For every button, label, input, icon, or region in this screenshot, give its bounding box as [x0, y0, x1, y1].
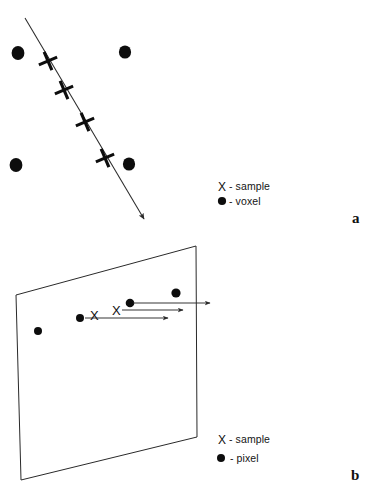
legend-pixel-label-b: - pixel — [230, 452, 259, 464]
image-plane-quad — [16, 246, 197, 480]
panel-letter-b: b — [351, 467, 359, 483]
legend-sample-symbol-b: X — [218, 433, 226, 447]
pixel-dot-upper-right — [171, 288, 180, 297]
legend-panel-a: X - sample - voxel — [218, 180, 270, 207]
pixel-dot-far-left — [34, 327, 42, 335]
figure-root: X - sample - voxel a — [0, 0, 371, 496]
panel-a: X - sample - voxel a — [10, 18, 360, 226]
sample-marks-group — [39, 52, 114, 167]
plane-sample-mark-2: X — [112, 303, 121, 318]
panel-b: X X X - sample - pixel b — [16, 246, 359, 483]
legend-voxel-label-a: - voxel — [229, 195, 261, 207]
sample-mark-3 — [76, 113, 94, 131]
projection-arrow-group — [85, 303, 210, 318]
legend-panel-b: X - sample - pixel — [217, 433, 270, 464]
plane-sample-mark-1: X — [90, 308, 99, 323]
figure-canvas: X - sample - voxel a — [0, 0, 371, 496]
panel-letter-a: a — [352, 210, 360, 226]
legend-sample-label-b: - sample — [229, 433, 270, 445]
voxel-dot-group — [10, 45, 136, 172]
pixel-dot-left — [76, 314, 84, 322]
voxel-dot-bottom-right — [123, 157, 135, 170]
voxel-dot-top-left — [12, 46, 25, 60]
legend-sample-label-a: - sample — [229, 180, 270, 192]
pixel-dot-group — [34, 288, 181, 335]
voxel-dot-bottom-left — [10, 158, 23, 172]
legend-pixel-symbol-b — [217, 454, 225, 462]
voxel-dot-top-right — [119, 45, 131, 58]
legend-voxel-symbol-a — [218, 197, 226, 205]
legend-sample-symbol-a: X — [218, 180, 226, 194]
